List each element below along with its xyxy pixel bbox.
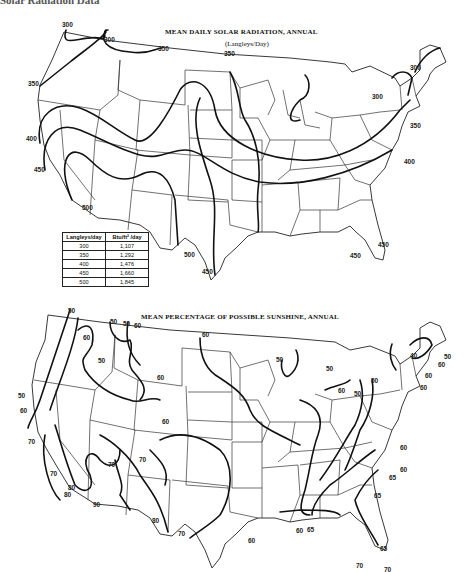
contour-label: 70	[139, 456, 147, 463]
contour-label: 50	[18, 392, 26, 399]
contour-label: 350	[410, 122, 421, 129]
langleys-value: 450	[63, 269, 106, 278]
contour-label: 65	[380, 545, 388, 552]
contour-label: 70	[28, 438, 36, 445]
contour-label: 60	[134, 322, 142, 329]
table-row: 500 1,845	[63, 278, 149, 287]
contour-label: 65	[374, 492, 382, 499]
contour-label: 65	[307, 526, 315, 533]
contour-label: 350	[224, 50, 235, 57]
langleys-btu-conversion-table: Langleys/day Btu/ft² /day 300 1,107 350 …	[62, 232, 149, 287]
contour-label: 50	[326, 365, 334, 372]
contour-label: 70	[50, 470, 58, 477]
contour-label: 50	[371, 377, 379, 384]
contour-label: 60	[20, 407, 28, 414]
table-header-btu: Btu/ft² /day	[106, 233, 149, 242]
contour-label: 60	[202, 331, 210, 338]
contour-label: 300	[372, 93, 383, 100]
contour-label: 50	[444, 353, 452, 360]
langleys-value: 500	[63, 278, 106, 287]
table-row: 300 1,107	[63, 242, 149, 251]
langleys-value: 400	[63, 260, 106, 269]
contour-label: 50	[68, 307, 76, 314]
contour-label: 50	[98, 357, 106, 364]
table-header-langleys: Langleys/day	[63, 233, 106, 242]
contour-label: 60	[338, 387, 346, 394]
us-state-outlines	[32, 315, 446, 568]
sunshine-percentage-title: MEAN PERCENTAGE OF POSSIBLE SUNSHINE, AN…	[141, 313, 339, 321]
table-row: 400 1,476	[63, 260, 149, 269]
btu-value: 1,476	[106, 260, 149, 269]
contour-label: 50	[123, 320, 131, 327]
contour-label: 50	[354, 390, 362, 397]
contour-label: 50	[110, 318, 118, 325]
contour-label: 300	[104, 36, 115, 43]
btu-value: 1,107	[106, 242, 149, 251]
btu-value: 1,845	[106, 278, 149, 287]
contour-label: 40	[410, 352, 418, 359]
btu-value: 1,660	[106, 269, 149, 278]
contour-label: 350	[158, 45, 169, 52]
table-row: 450 1,660	[63, 269, 149, 278]
contour-label: 300	[410, 64, 421, 71]
contour-label: 80	[64, 491, 72, 498]
contour-labels-bottom: 50 50 50 60 60 60 50 60 50 60 70 60 70 7…	[18, 307, 452, 572]
solar-radiation-subtitle: (Langleys/Day)	[225, 40, 269, 48]
contour-label: 70	[356, 562, 364, 569]
contour-label: 70	[178, 530, 186, 537]
contour-label: 400	[404, 158, 415, 165]
contour-label: 60	[400, 444, 408, 451]
sunshine-percentage-map: 50 50 50 60 60 60 50 60 50 60 70 60 70 7…	[0, 300, 468, 572]
contour-label: 80	[152, 517, 160, 524]
contour-label: 450	[378, 241, 389, 248]
contour-label: 60	[162, 418, 170, 425]
contour-label: 60	[400, 466, 408, 473]
contour-label: 60	[425, 372, 433, 379]
solar-radiation-title: MEAN DAILY SOLAR RADIATION, ANNUAL	[165, 28, 318, 36]
table-row: 350 1,292	[63, 251, 149, 260]
contour-label: 350	[28, 80, 39, 87]
btu-value: 1,292	[106, 251, 149, 260]
contour-label: 70	[384, 566, 392, 572]
contour-label: 60	[420, 384, 428, 391]
contour-label: 60	[157, 374, 165, 381]
contour-label: 450	[34, 166, 45, 173]
contour-label: 60	[438, 361, 446, 368]
contour-label: 450	[202, 268, 213, 275]
contour-label: 60	[83, 334, 91, 341]
langleys-value: 350	[63, 251, 106, 260]
contour-label: 500	[184, 251, 195, 258]
contour-label: 400	[26, 135, 37, 142]
contour-label: 50	[276, 356, 284, 363]
contour-label: 60	[248, 537, 256, 544]
contour-label: 450	[350, 252, 361, 259]
contour-label: 300	[62, 21, 73, 28]
contour-label: 60	[296, 527, 304, 534]
langleys-value: 300	[63, 242, 106, 251]
contour-label: 80	[68, 484, 76, 491]
contour-label: 70	[108, 461, 116, 468]
contour-label: 65	[389, 474, 397, 481]
contour-label: 500	[82, 204, 93, 211]
contour-label: 90	[93, 501, 101, 508]
